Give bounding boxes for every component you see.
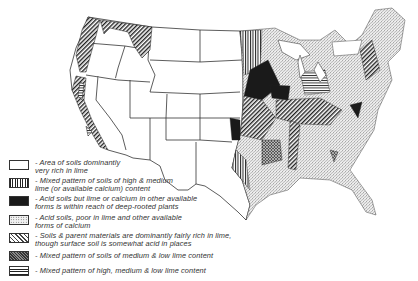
legend-item-high-medium-low-lime: - Mixed pattern of high, medium & low li… (9, 265, 309, 281)
legend-label: - Area of soils dominantly very rich in … (35, 159, 120, 176)
legend-label: - Acid soils but lime or calcium in othe… (35, 195, 197, 212)
diagonal-lines-swatch-icon (9, 233, 29, 243)
legend-label: - Mixed pattern of high, medium & low li… (35, 267, 206, 275)
horizontal-lines-swatch-icon (9, 266, 29, 276)
legend-label: - Acid soils, poor in lime and other ava… (35, 214, 182, 231)
solid-black-swatch-icon (9, 196, 29, 206)
legend-item-medium-low-lime: - Mixed pattern of soils of medium & low… (9, 250, 309, 266)
legend-item-acid-poor-lime: - Acid soils, poor in lime and other ava… (9, 214, 309, 230)
legend-item-high-medium-lime: - Mixed pattern of soils of high & mediu… (9, 177, 309, 193)
legend-item-acid-deep-rooted: - Acid soils but lime or calcium in othe… (9, 195, 309, 211)
soil-lime-map-figure: - Area of soils dominantly very rich in … (0, 0, 418, 281)
crosshatch-swatch-icon (9, 251, 29, 261)
legend-item-very-rich-lime: - Area of soils dominantly very rich in … (9, 159, 309, 175)
legend-label: - Soils & parent materials are dominantl… (35, 232, 231, 249)
legend-label: - Mixed pattern of soils of medium & low… (35, 252, 213, 260)
vertical-lines-swatch-icon (9, 178, 29, 188)
stipple-swatch-icon (9, 215, 29, 225)
legend-label: - Mixed pattern of soils of high & mediu… (35, 177, 173, 194)
blank-swatch-icon (9, 160, 29, 170)
legend-item-fairly-rich-lime: - Soils & parent materials are dominantl… (9, 232, 309, 248)
